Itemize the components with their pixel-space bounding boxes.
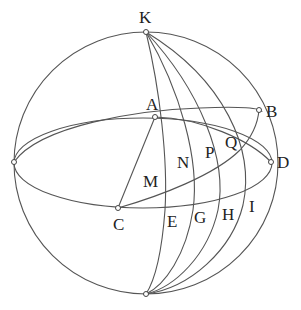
point-left-marker bbox=[12, 160, 17, 165]
label-M: M bbox=[143, 172, 158, 191]
point-bottom-pole-marker bbox=[144, 292, 149, 297]
meridian-K-M-E bbox=[146, 32, 166, 294]
sphere-outline bbox=[14, 32, 278, 294]
point-A-marker bbox=[153, 115, 158, 120]
meridian-K-Q-I bbox=[146, 32, 246, 294]
point-D-marker bbox=[269, 160, 274, 165]
label-P: P bbox=[205, 143, 214, 162]
label-B: B bbox=[266, 102, 277, 121]
label-E: E bbox=[167, 212, 177, 231]
label-K: K bbox=[139, 8, 152, 27]
label-Q: Q bbox=[225, 133, 237, 152]
label-N: N bbox=[177, 153, 189, 172]
label-I: I bbox=[249, 197, 255, 216]
point-B-marker bbox=[257, 108, 262, 113]
point-C-marker bbox=[116, 206, 121, 211]
label-H: H bbox=[222, 205, 234, 224]
equator-circle-CD bbox=[14, 118, 272, 208]
label-C: C bbox=[113, 215, 124, 234]
label-A: A bbox=[146, 95, 159, 114]
arc-AC bbox=[118, 117, 155, 208]
label-G: G bbox=[194, 208, 206, 227]
point-K-marker bbox=[144, 30, 149, 35]
label-D: D bbox=[277, 153, 289, 172]
sphere-diagram: K A B C D M N P Q E G H I bbox=[0, 0, 301, 310]
